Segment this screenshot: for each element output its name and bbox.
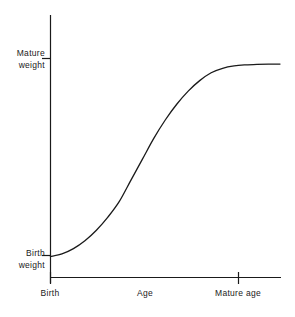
x-label-birth: Birth: [41, 288, 60, 298]
y-label-birth-weight-line2: weight: [18, 260, 46, 270]
x-axis-title: Age: [137, 288, 153, 298]
y-label-mature-weight-line1: Mature: [17, 48, 45, 58]
growth-curve-figure: Mature weight Birth weight Birth Age Mat…: [0, 0, 295, 317]
y-label-mature-weight-line2: weight: [18, 60, 46, 70]
x-label-mature-age: Mature age: [215, 288, 261, 298]
y-label-birth-weight-line1: Birth: [26, 248, 45, 258]
